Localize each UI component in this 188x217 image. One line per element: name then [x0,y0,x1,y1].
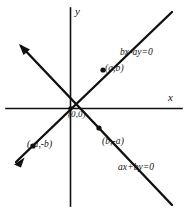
equation-label-line-negative-slope: ax+by=0 [118,163,154,173]
point-marker-b-neg-a [96,125,101,130]
equation-label-line-positive-slope: bx-ay=0 [120,48,153,58]
point-label-neg-a-neg-b: (-a,-b) [27,140,52,150]
math-figure-canvas: y x (0,0) (a,b) (b,-a) (-a,-b) bx-ay=0 a… [0,0,188,217]
y-axis-label: y [75,6,80,17]
origin-label: (0,0) [68,110,86,119]
point-label-ab: (a,b) [105,64,124,74]
line-negative-slope [21,46,172,205]
coordinate-plane-drawing [0,0,188,217]
x-axis-label: x [168,92,173,103]
point-label-b-neg-a: (b,-a) [102,137,124,147]
